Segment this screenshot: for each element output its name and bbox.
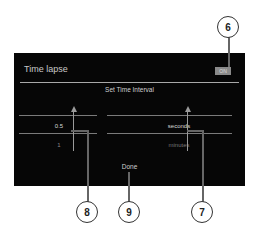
interval-unit-option[interactable]: minutes xyxy=(154,142,204,148)
callout-leader xyxy=(87,130,89,202)
picker-divider xyxy=(107,115,232,116)
done-button[interactable]: Done xyxy=(14,163,245,170)
interval-value-selected[interactable]: 0.5 xyxy=(44,123,74,129)
callout-leader xyxy=(228,37,230,67)
interval-unit-selected[interactable]: seconds xyxy=(154,123,204,129)
callout-9: 9 xyxy=(118,201,140,223)
set-interval-heading: Set Time Interval xyxy=(14,86,245,93)
dialog-title: Time lapse xyxy=(24,64,68,74)
callout-leader xyxy=(187,130,202,132)
callout-leader xyxy=(71,130,87,132)
time-lapse-dialog: Time lapse ON Set Time Interval 0.5 1 se… xyxy=(14,53,245,186)
scroll-up-arrow-icon xyxy=(185,106,191,112)
callout-leader xyxy=(202,130,204,202)
scroll-up-arrow-icon xyxy=(71,106,77,112)
callout-7: 7 xyxy=(191,201,213,223)
time-lapse-toggle[interactable]: ON xyxy=(215,67,231,75)
callout-6: 6 xyxy=(217,16,239,38)
picker-divider xyxy=(19,133,97,134)
interval-value-option[interactable]: 1 xyxy=(44,142,74,148)
picker-divider xyxy=(107,133,232,134)
callout-leader xyxy=(128,172,130,202)
header-divider xyxy=(20,82,239,83)
picker-divider xyxy=(19,115,97,116)
callout-8: 8 xyxy=(76,201,98,223)
